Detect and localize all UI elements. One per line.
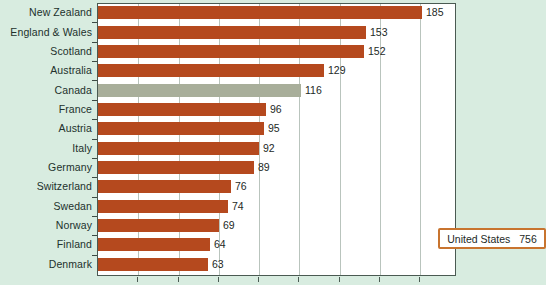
- axis-tick-bottom: [178, 277, 179, 282]
- axis-tick: [92, 100, 97, 101]
- united-states-callout-value: 756: [519, 233, 537, 245]
- category-label: England & Wales: [0, 26, 92, 38]
- category-label: Swedan: [0, 200, 92, 212]
- axis-tick: [92, 42, 97, 43]
- plot-area: 185153152129116969592897674696463 United…: [97, 3, 456, 276]
- bar-value-label: 152: [368, 45, 386, 58]
- united-states-callout: United States 756: [438, 228, 546, 249]
- united-states-callout-label: United States: [447, 233, 510, 245]
- axis-tick-bottom: [379, 277, 380, 282]
- category-label: Norway: [0, 219, 92, 231]
- bar-value-label: 74: [232, 200, 244, 213]
- axis-tick: [92, 139, 97, 140]
- bar: [98, 103, 266, 116]
- axis-tick: [92, 61, 97, 62]
- axis-tick-bottom: [419, 277, 420, 282]
- category-label: Canada: [0, 84, 92, 96]
- axis-tick: [92, 177, 97, 178]
- bar-value-label: 64: [214, 238, 226, 251]
- bar: [98, 142, 259, 155]
- axis-tick-bottom: [339, 277, 340, 282]
- category-label: Austria: [0, 122, 92, 134]
- bar-value-label: 63: [212, 258, 224, 271]
- bar-value-label: 129: [328, 64, 346, 77]
- bar-value-label: 116: [305, 84, 322, 97]
- bar: [98, 84, 301, 97]
- axis-tick: [92, 235, 97, 236]
- bar: [98, 26, 366, 39]
- bar-value-label: 92: [263, 142, 275, 155]
- bar: [98, 122, 264, 135]
- bar: [98, 6, 422, 19]
- axis-tick-bottom: [258, 277, 259, 282]
- bar-value-label: 153: [370, 26, 388, 39]
- bar-value-label: 76: [235, 180, 247, 193]
- bar-value-label: 89: [258, 161, 270, 174]
- bar-value-label: 95: [268, 122, 280, 135]
- axis-tick: [92, 22, 97, 23]
- category-label: Switzerland: [0, 180, 92, 192]
- axis-tick-bottom: [298, 277, 299, 282]
- bar-value-label: 96: [270, 103, 282, 116]
- axis-tick: [92, 197, 97, 198]
- category-label-column: New ZealandEngland & WalesScotlandAustra…: [0, 3, 92, 276]
- bar: [98, 258, 208, 271]
- category-label: Germany: [0, 161, 92, 173]
- bar: [98, 64, 324, 77]
- category-label: Italy: [0, 142, 92, 154]
- axis-tick: [92, 158, 97, 159]
- bar: [98, 200, 228, 213]
- bar-value-label: 185: [426, 6, 444, 19]
- axis-tick: [92, 216, 97, 217]
- axis-tick-bottom: [137, 277, 138, 282]
- axis-tick: [92, 80, 97, 81]
- bar: [98, 45, 364, 58]
- category-label: France: [0, 103, 92, 115]
- axis-tick-bottom: [218, 277, 219, 282]
- category-label: New Zealand: [0, 6, 92, 18]
- bar: [98, 161, 254, 174]
- category-label: Scotland: [0, 45, 92, 57]
- bar-value-label: 69: [223, 219, 235, 232]
- axis-tick: [92, 119, 97, 120]
- bar: [98, 180, 231, 193]
- category-label: Australia: [0, 64, 92, 76]
- axis-tick: [92, 255, 97, 256]
- category-label: Finland: [0, 238, 92, 250]
- bar: [98, 238, 210, 251]
- category-label: Denmark: [0, 258, 92, 270]
- bar: [98, 219, 219, 232]
- gridline: [420, 4, 421, 275]
